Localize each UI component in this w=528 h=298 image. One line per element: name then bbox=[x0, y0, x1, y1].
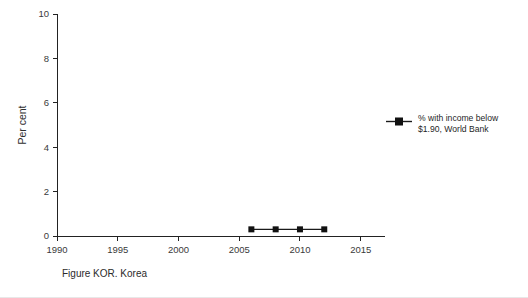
x-axis-tick-label: 2000 bbox=[168, 244, 189, 255]
series-data-point bbox=[273, 226, 279, 232]
series-data-point bbox=[248, 226, 254, 232]
legend-item-label: % with income below $1.90, World Bank bbox=[418, 113, 498, 135]
square-line-marker-icon bbox=[386, 117, 412, 126]
series-data-point bbox=[297, 226, 303, 232]
chart-plot-area: 0246810199019952000200520102015Per cent bbox=[0, 0, 528, 298]
x-axis-tick-label: 2005 bbox=[229, 244, 250, 255]
figure-container: 0246810199019952000200520102015Per cent … bbox=[0, 0, 528, 298]
figure-caption: Figure KOR. Korea bbox=[62, 268, 147, 279]
x-axis-tick-label: 1995 bbox=[107, 244, 128, 255]
x-axis-tick-label: 2010 bbox=[289, 244, 310, 255]
y-axis-tick-label: 8 bbox=[44, 53, 49, 64]
x-axis-tick-label: 1990 bbox=[46, 244, 67, 255]
series-data-point bbox=[321, 226, 327, 232]
y-axis-tick-label: 10 bbox=[38, 8, 49, 19]
chart-legend: % with income below $1.90, World Bank bbox=[386, 113, 498, 135]
y-axis-tick-label: 2 bbox=[44, 186, 49, 197]
y-axis-tick-label: 0 bbox=[44, 230, 49, 241]
x-axis-tick-label: 2015 bbox=[350, 244, 371, 255]
y-axis-tick-label: 6 bbox=[44, 97, 49, 108]
y-axis-tick-label: 4 bbox=[44, 142, 49, 153]
y-axis-title: Per cent bbox=[16, 105, 28, 144]
